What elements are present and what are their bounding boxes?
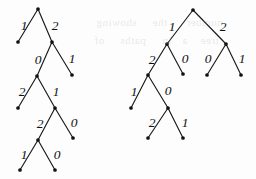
tree-leaf-node [239, 73, 243, 77]
tree-root-node [191, 8, 195, 12]
edge-label: 1 [21, 148, 28, 162]
tree-internal-node [36, 138, 40, 142]
edge-label: 0 [35, 53, 42, 67]
edge-label: 1 [169, 20, 176, 34]
bleed-through-text: a [182, 34, 187, 46]
bleed-through-text: the [152, 16, 167, 28]
tree-diagram-figure: 12012120101220011021 showingthenumberofp… [0, 0, 256, 179]
tree-leaf-node [53, 168, 57, 172]
edge-label: 2 [37, 117, 44, 131]
edge-label: 1 [239, 52, 246, 66]
nodes-layer [16, 7, 243, 172]
bleed-through-text: showing [96, 16, 137, 28]
edge-label: 0 [71, 116, 78, 130]
bleed-through-text: in [162, 34, 172, 46]
tree-internal-node [53, 106, 57, 110]
edge-label: 2 [19, 85, 26, 99]
bleed-through-text: paths [120, 34, 146, 46]
tree-leaf-node [146, 136, 150, 140]
tree-leaf-node [181, 72, 185, 76]
tree-leaf-node [16, 106, 20, 110]
bleed-through-text: number [186, 16, 223, 28]
edge-label: 1 [131, 85, 138, 99]
bleed-through-text: tree [200, 34, 218, 46]
edge-label: 1 [69, 52, 76, 66]
tree-leaf-node [70, 73, 74, 77]
tree-internal-node [146, 73, 150, 77]
edge-label: 0 [165, 84, 172, 98]
edge-label: 2 [149, 53, 156, 67]
tree-leaf-node [71, 136, 75, 140]
bleed-through-text: of [94, 34, 104, 46]
tree-leaf-node [18, 168, 22, 172]
tree-internal-node [50, 40, 54, 44]
tree-internal-node [224, 42, 228, 46]
tree-leaf-node [16, 40, 20, 44]
tree-leaf-node [129, 106, 133, 110]
tree-internal-node [166, 106, 170, 110]
tree-edge [38, 140, 55, 170]
edge-label: 1 [21, 19, 28, 33]
tree-leaf-node [181, 136, 185, 140]
edge-label: 0 [54, 148, 61, 162]
edge-label: 0 [205, 52, 212, 66]
edge-label: 2 [52, 19, 59, 33]
edge-label: 1 [53, 85, 60, 99]
tree-internal-node [35, 74, 39, 78]
edge-label: 0 [182, 52, 189, 66]
edge-label: 1 [182, 116, 189, 130]
edge-label: 2 [149, 116, 156, 130]
tree-root-node [36, 7, 40, 11]
tree-edge [38, 9, 52, 42]
tree-edge [167, 44, 183, 74]
tree-leaf-node [205, 73, 209, 77]
